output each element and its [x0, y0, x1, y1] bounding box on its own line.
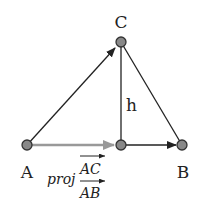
label-c: C — [114, 12, 127, 32]
side-cb — [121, 42, 182, 145]
proj-denominator: AB — [78, 185, 100, 201]
point-a — [22, 140, 32, 150]
point-p — [116, 140, 126, 150]
proj-prefix: proj — [47, 171, 76, 187]
point-c — [116, 37, 126, 47]
proj-numerator: AC — [78, 161, 101, 177]
point-b — [177, 140, 187, 150]
label-height: h — [126, 95, 137, 115]
label-b: B — [177, 162, 190, 182]
label-a: A — [20, 162, 34, 182]
projection-diagram: C A B h proj AC AB — [0, 0, 204, 211]
vector-ac — [27, 48, 115, 145]
